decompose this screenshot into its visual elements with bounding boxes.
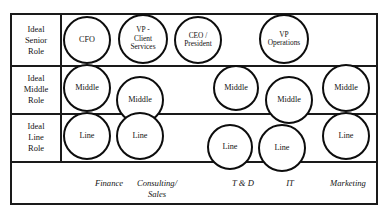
node-marketing-line[interactable]: Line [322, 112, 370, 160]
node-it-senior[interactable]: VP Operations [259, 14, 309, 64]
node-label: Middle [127, 95, 153, 105]
node-ceo-senior[interactable]: CEO / President [174, 16, 222, 64]
row-label-line-2: Middle [24, 84, 49, 95]
column-label-consulting-sales: Consulting/ Sales [124, 178, 190, 200]
label-column-divider [60, 15, 62, 161]
node-finance-middle[interactable]: Middle [63, 64, 111, 112]
row-label-ideal-line-role: Ideal Line Role [12, 113, 60, 161]
node-marketing-middle[interactable]: Middle [322, 64, 370, 112]
node-label: Line [78, 131, 95, 141]
node-label: Line [337, 131, 354, 141]
node-finance-line[interactable]: Line [63, 112, 111, 160]
node-label: Line [131, 131, 148, 141]
row-label-line-1: Ideal [28, 121, 45, 132]
row-label-line-1: Ideal [28, 73, 45, 84]
column-label-marketing: Marketing [317, 178, 379, 189]
column-label-t-and-d: T & D [218, 178, 268, 189]
node-finance-senior[interactable]: CFO [63, 16, 111, 64]
node-label: Middle [333, 83, 359, 93]
node-label: Line [273, 143, 290, 153]
node-it-middle[interactable]: Middle [265, 76, 313, 124]
node-it-line[interactable]: Line [258, 124, 306, 172]
row-label-ideal-senior-role: Ideal Senior Role [12, 15, 60, 65]
diagram-canvas: Ideal Senior Role Ideal Middle Role Idea… [0, 0, 392, 217]
row-divider-middle-line [12, 113, 376, 115]
node-label: Middle [276, 95, 302, 105]
node-label: CFO [78, 35, 96, 45]
row-divider-line-labels [12, 161, 376, 163]
node-label: VP - Client Services [129, 26, 156, 51]
node-label: Middle [223, 83, 249, 93]
node-label: VP Operations [267, 31, 301, 48]
node-label: Middle [74, 83, 100, 93]
node-label: CEO / President [183, 32, 213, 49]
node-td-middle[interactable]: Middle [213, 65, 259, 111]
node-consulting-line[interactable]: Line [116, 112, 164, 160]
row-label-line-2: Senior [25, 35, 47, 46]
row-label-ideal-middle-role: Ideal Middle Role [12, 65, 60, 113]
row-label-line-1: Ideal [28, 24, 45, 35]
column-label-it: IT [270, 178, 310, 189]
row-divider-senior-middle [12, 65, 376, 67]
node-td-line[interactable]: Line [207, 124, 253, 170]
node-label: Line [221, 142, 238, 152]
row-label-line-2: Line [28, 132, 44, 143]
row-label-line-3: Role [28, 46, 44, 57]
row-label-line-3: Role [28, 95, 44, 106]
row-label-line-3: Role [28, 143, 44, 154]
node-consulting-senior[interactable]: VP - Client Services [118, 14, 168, 64]
